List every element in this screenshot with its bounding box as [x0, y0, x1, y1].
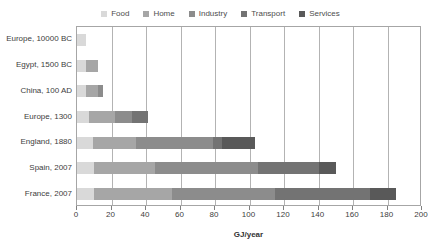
- bar-segment-home[interactable]: [94, 162, 154, 174]
- category-label: England, 1880: [20, 137, 72, 146]
- bar-segment-food[interactable]: [77, 34, 86, 46]
- bar-row: [77, 60, 420, 72]
- bar-row: [77, 34, 420, 46]
- legend-item-industry[interactable]: Industry: [189, 10, 227, 18]
- category-label: Europe, 10000 BC: [6, 34, 72, 43]
- bar-segment-home[interactable]: [86, 85, 98, 97]
- bar-row: [77, 162, 420, 174]
- bar-segment-transport[interactable]: [275, 188, 370, 200]
- bar-segment-food[interactable]: [77, 60, 86, 72]
- bar-segment-food[interactable]: [77, 162, 94, 174]
- tick-label: 180: [380, 210, 393, 219]
- bar-segment-services[interactable]: [370, 188, 396, 200]
- legend-item-label: Services: [309, 10, 340, 18]
- bar-segment-transport[interactable]: [258, 162, 318, 174]
- legend-item-home[interactable]: Home: [143, 10, 174, 18]
- tick-label: 20: [106, 210, 115, 219]
- bar-segment-food[interactable]: [77, 111, 89, 123]
- category-axis-labels: Europe, 10000 BCEgypt, 1500 BCChina, 100…: [0, 26, 72, 206]
- stacked-bar[interactable]: [77, 188, 396, 200]
- tick-label: 40: [141, 210, 150, 219]
- category-label: China, 100 AD: [20, 86, 72, 95]
- legend-item-label: Home: [153, 10, 174, 18]
- tick-label: 60: [175, 210, 184, 219]
- bar-row: [77, 137, 420, 149]
- stacked-bar[interactable]: [77, 162, 336, 174]
- bar-segment-industry[interactable]: [98, 85, 103, 97]
- category-label: Spain, 2007: [29, 163, 72, 172]
- bar-segment-food[interactable]: [77, 85, 86, 97]
- legend-item-label: Industry: [199, 10, 227, 18]
- bar-segment-food[interactable]: [77, 137, 93, 149]
- legend-swatch-icon: [241, 11, 247, 17]
- bar-segment-transport[interactable]: [132, 111, 148, 123]
- category-label: Europe, 1300: [24, 112, 72, 121]
- tick-label: 140: [311, 210, 324, 219]
- stacked-bar[interactable]: [77, 137, 255, 149]
- tick-label: 100: [242, 210, 255, 219]
- stacked-bar[interactable]: [77, 34, 86, 46]
- bar-segment-industry[interactable]: [115, 111, 132, 123]
- bar-segment-industry[interactable]: [155, 162, 259, 174]
- plot-area: [76, 26, 421, 206]
- category-label: Egypt, 1500 BC: [16, 60, 72, 69]
- stacked-bar[interactable]: [77, 85, 103, 97]
- bar-segment-home[interactable]: [89, 111, 115, 123]
- bar-segment-home[interactable]: [94, 188, 172, 200]
- legend-swatch-icon: [189, 11, 195, 17]
- bar-segment-industry[interactable]: [172, 188, 276, 200]
- category-label: France, 2007: [25, 189, 72, 198]
- bar-row: [77, 85, 420, 97]
- legend-item-services[interactable]: Services: [299, 10, 340, 18]
- bar-segment-home[interactable]: [93, 137, 136, 149]
- value-axis: 020406080100120140160180200: [76, 206, 421, 220]
- bar-row: [77, 188, 420, 200]
- bar-segment-food[interactable]: [77, 188, 94, 200]
- tick-label: 160: [345, 210, 358, 219]
- legend-swatch-icon: [299, 11, 305, 17]
- bar-segment-services[interactable]: [222, 137, 255, 149]
- tick-label: 80: [210, 210, 219, 219]
- chart-legend: FoodHomeIndustryTransportServices: [0, 10, 441, 18]
- bar-segment-home[interactable]: [86, 60, 98, 72]
- bar-segment-services[interactable]: [319, 162, 336, 174]
- legend-swatch-icon: [143, 11, 149, 17]
- stacked-bar-chart: FoodHomeIndustryTransportServices Europe…: [0, 0, 441, 252]
- legend-item-food[interactable]: Food: [101, 10, 129, 18]
- tick-label: 120: [276, 210, 289, 219]
- bar-row: [77, 111, 420, 123]
- legend-item-label: Transport: [251, 10, 285, 18]
- bar-segment-industry[interactable]: [136, 137, 214, 149]
- tick-label: 200: [414, 210, 427, 219]
- x-axis-title: GJ/year: [76, 230, 421, 239]
- bar-rows: [77, 27, 420, 205]
- legend-item-label: Food: [111, 10, 129, 18]
- legend-item-transport[interactable]: Transport: [241, 10, 285, 18]
- stacked-bar[interactable]: [77, 60, 98, 72]
- legend-swatch-icon: [101, 11, 107, 17]
- tick-label: 0: [74, 210, 78, 219]
- stacked-bar[interactable]: [77, 111, 148, 123]
- bar-segment-transport[interactable]: [213, 137, 222, 149]
